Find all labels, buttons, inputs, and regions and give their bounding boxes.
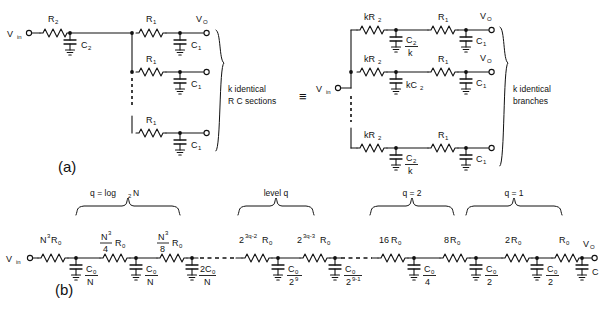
- label-b-res8-tail: R: [511, 235, 518, 245]
- panel-a-left-vin-terminal[interactable]: [26, 30, 31, 35]
- capacitor-b-7: [470, 258, 482, 280]
- capacitor-b-2: [130, 258, 142, 280]
- node-right-bus-mid: [349, 70, 353, 74]
- label-rb2-c1-sub: 1: [483, 83, 487, 89]
- panel-a-right-vin-terminal[interactable]: [335, 85, 340, 90]
- brace-group-4: [466, 198, 562, 215]
- label-rb1-c1: C: [476, 36, 483, 46]
- panel-a-right-branch-3: kR 2 C 2 k R 1 C 1: [351, 130, 494, 176]
- equivalence-symbol: ≡: [299, 89, 307, 104]
- label-b-res9-tail-sub: 0: [566, 240, 570, 246]
- label-c2-sub: 2: [88, 45, 92, 51]
- label-rb3-capnum: C: [406, 153, 413, 163]
- resistor-branch3-r1: [136, 129, 166, 137]
- panel-a-right-circuit: V in kR 2 C 2 k R 1 C 1: [316, 11, 551, 176]
- label-rb2-kr2: kR: [364, 54, 376, 64]
- label-rb3-kr2: kR: [364, 130, 376, 140]
- label-b-res5-tail: R: [320, 235, 327, 245]
- label-b-res3-tail: R: [172, 238, 179, 248]
- label-rb3-kr2-sub: 2: [378, 135, 382, 141]
- label-b-res3-tail-sub: 0: [179, 243, 183, 249]
- resistor-b-6: [378, 254, 408, 262]
- panel-a-left-vo-terminal[interactable]: [204, 30, 209, 35]
- label-rb3-c1-sub: 1: [483, 159, 487, 165]
- panel-a-left-branch2-terminal[interactable]: [204, 69, 209, 74]
- brace-group-2: [238, 198, 314, 215]
- label-b-cap5-den-sup: 9-1: [352, 276, 361, 282]
- label-b-cap1-num: C: [86, 264, 93, 274]
- panel-a-right-vo1-terminal[interactable]: [489, 27, 494, 32]
- capacitor-b-1: [70, 258, 82, 280]
- label-rb3-r1: R: [438, 130, 445, 140]
- panel-a-right-vo2-terminal[interactable]: [489, 69, 494, 74]
- label-b-res6-base: 16: [379, 235, 389, 245]
- label-rb2-vo-sub: O: [487, 58, 492, 64]
- panel-b-vin-sub: in: [16, 259, 21, 265]
- label-b-cap3-num-sub: 0: [212, 269, 216, 275]
- label-b-cap7-num: C: [486, 264, 493, 274]
- label-b-cap9-num: C: [592, 267, 599, 277]
- label-b-res8-tail-sub: 0: [518, 240, 522, 246]
- label-branch3-c1-sub: 1: [198, 145, 202, 151]
- circuit-diagram-svg: V in R 2 C 2 R 1 C 1 V O: [0, 0, 609, 319]
- capacitor-rb2-kc2: [390, 72, 402, 94]
- brace-group-1-label: q = log: [90, 188, 116, 198]
- label-b-cap2-num-sub: 0: [153, 269, 157, 275]
- label-rb1-vo: V: [480, 11, 486, 21]
- panel-a-right-branch-1: kR 2 C 2 k R 1 C 1 V O: [351, 11, 494, 58]
- label-b-res4-tail: R: [262, 235, 269, 245]
- label-b-cap8-num-sub: 0: [554, 269, 558, 275]
- brace-group-4-label: q = 1: [504, 188, 523, 198]
- capacitor-rb1-c1: [460, 30, 472, 52]
- label-rb1-r1-sub: 1: [445, 17, 449, 23]
- resistor-b-7: [440, 254, 470, 262]
- panel-a-right-branch3-terminal[interactable]: [489, 145, 494, 150]
- resistor-b-4: [242, 254, 272, 262]
- resistor-branch2-r1: [136, 68, 166, 76]
- label-rb1-kr2: kR: [364, 12, 376, 22]
- label-rb3-capden: k: [408, 166, 413, 176]
- resistor-rb3-kr2: [357, 144, 387, 152]
- label-b-res7-tail-sub: 0: [457, 240, 461, 246]
- label-rb1-capden: k: [408, 48, 413, 58]
- label-b-res5-sup: 3q-3: [303, 233, 316, 239]
- label-b-cap8-den: 2: [548, 277, 553, 287]
- label-rb2-capnum: kC: [406, 80, 418, 90]
- label-rb2-r1-sub: 1: [445, 59, 449, 65]
- label-b-res2-num: N: [101, 232, 108, 242]
- panel-b-vin-terminal[interactable]: [27, 255, 32, 260]
- label-b-res4-sup: 3q-2: [245, 233, 258, 239]
- panel-a-caption: (a): [58, 158, 76, 175]
- capacitor-rb2-c1: [460, 72, 472, 94]
- label-branch2-c1: C: [191, 79, 198, 89]
- resistor-rb2-r1: [428, 68, 458, 76]
- panel-a-left-branch3-terminal[interactable]: [204, 130, 209, 135]
- resistor-r2: [40, 29, 70, 37]
- brace-group-3-label: q = 2: [402, 188, 421, 198]
- panel-b-vo-label: V: [583, 239, 589, 249]
- label-rb1-c1-sub: 1: [483, 41, 487, 47]
- panel-a-left-vin-label: V: [7, 29, 13, 39]
- label-b-res7-base: 8: [444, 235, 449, 245]
- label-b-res2-den: 4: [103, 244, 108, 254]
- label-rb2-c1: C: [476, 78, 483, 88]
- panel-b-vo-terminal[interactable]: [592, 255, 597, 260]
- panel-b-vo-sub: O: [590, 244, 595, 250]
- label-rb2-r1: R: [438, 54, 445, 64]
- panel-b-circuit: q = log 2 N level q q = 2 q = 1 V in N 3…: [6, 188, 599, 298]
- capacitor-b-6: [408, 258, 420, 280]
- label-b-cap8-num: C: [547, 264, 554, 274]
- label-b-cap6-num: C: [424, 264, 431, 274]
- label-b-cap4-num: C: [288, 264, 295, 274]
- brace2-label-line1: k identical: [513, 84, 551, 94]
- panel-a-left-vin-sub: in: [17, 34, 22, 40]
- label-branch3-r1-sub: 1: [153, 120, 157, 126]
- label-b-res2-tail-sub: 0: [122, 243, 126, 249]
- label-branch1-r1: R: [146, 14, 153, 24]
- node-bus-top: [130, 31, 134, 35]
- panel-a-left-branch-1: R 1 C 1 V O: [136, 14, 209, 55]
- node-bus-mid: [130, 70, 134, 74]
- label-b-cap5-den: 2: [346, 277, 351, 287]
- label-b-cap7-den: 2: [487, 277, 492, 287]
- capacitor-branch1-c1: [174, 33, 186, 55]
